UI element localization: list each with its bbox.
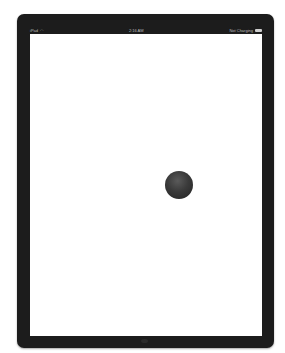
wifi-icon: ◠ xyxy=(40,28,43,33)
home-button[interactable] xyxy=(141,339,148,343)
status-time: 2:16 AM xyxy=(129,28,144,33)
battery-status: Not Charging xyxy=(229,28,253,33)
carrier-label: iPad xyxy=(30,28,38,33)
ipad-frame: iPad ◠ 2:16 AM Not Charging xyxy=(17,14,274,348)
status-bar: iPad ◠ 2:16 AM Not Charging xyxy=(30,27,262,34)
app-screen[interactable] xyxy=(30,34,262,336)
battery-icon xyxy=(255,29,262,32)
ball[interactable] xyxy=(165,171,193,199)
